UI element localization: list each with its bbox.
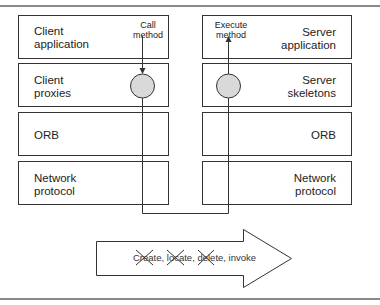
client-proxy-node [131, 74, 155, 98]
lifecycle-label: Create, locate, delete, invoke [133, 252, 256, 263]
server-skeleton-node [217, 74, 241, 98]
arrowhead-down-icon [140, 68, 146, 74]
request-path [143, 98, 229, 214]
arrowhead-up-icon [226, 36, 232, 42]
